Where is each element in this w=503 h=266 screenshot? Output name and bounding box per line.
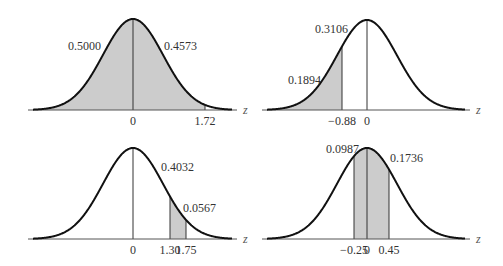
tick-label: 1.75 (176, 243, 197, 257)
tick-label: 0 (364, 243, 370, 257)
area-label: 0.1736 (390, 151, 423, 165)
area-label: 0.3106 (315, 22, 348, 36)
area-label: 0.4573 (164, 39, 197, 53)
z-axis-label: z (242, 232, 248, 246)
panel-2: z−0.8800.31060.1894 (262, 20, 481, 128)
z-axis-label: z (475, 232, 481, 246)
shaded-area (33, 19, 205, 110)
tick-label: 0 (130, 243, 136, 257)
tick-label: 0 (364, 114, 370, 128)
area-label: 0.0987 (326, 142, 359, 156)
z-axis-label: z (475, 103, 481, 117)
area-label: 0.5000 (68, 39, 101, 53)
normal-curve (267, 20, 465, 110)
tick-label: 0.45 (379, 243, 400, 257)
tick-label: −0.88 (328, 114, 356, 128)
area-label: 0.4032 (161, 160, 194, 174)
tick-label: 0 (130, 114, 136, 128)
z-axis-label: z (242, 103, 248, 117)
panel-1: z01.720.50000.4573 (28, 19, 248, 128)
panel-4: z−0.2500.450.09870.1736 (262, 142, 481, 257)
area-label: 0.0567 (183, 201, 216, 215)
normal-curves-figure: z01.720.50000.4573z−0.8800.31060.1894z01… (0, 0, 503, 266)
tick-label: 1.72 (195, 114, 216, 128)
area-label: 0.1894 (288, 73, 321, 87)
panel-3: z01.301.750.40320.0567 (28, 148, 248, 257)
